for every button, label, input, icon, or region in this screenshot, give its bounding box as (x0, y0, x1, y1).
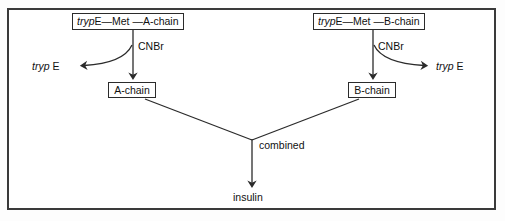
label-tryp-e-right-prefix: tryp (436, 60, 454, 72)
label-tryp-e-right-rest: E (454, 60, 464, 72)
edge-a-chain-to-junction (145, 99, 252, 140)
node-b-chain-label: B-chain (354, 85, 390, 96)
figure-root: tryp E—Met —A-chain tryp E—Met —B-chain … (0, 0, 505, 221)
label-insulin: insulin (233, 192, 263, 203)
node-tryp-e-met-b-chain: tryp E—Met —B-chain (313, 13, 425, 30)
edge-fusion-a-to-tryp-e-left (84, 45, 132, 66)
label-combined: combined (259, 140, 305, 151)
node-a-chain: A-chain (108, 82, 156, 98)
node-tryp-e-met-b-chain-rest: E—Met —B-chain (336, 16, 420, 27)
label-tryp-e-left-rest: E (50, 60, 60, 72)
label-cnbr-right: CNBr (378, 41, 404, 52)
node-tryp-e-met-b-chain-prefix: tryp (318, 16, 336, 27)
edge-b-chain-to-junction (252, 99, 359, 140)
node-tryp-e-met-a-chain-prefix: tryp (77, 16, 95, 27)
node-a-chain-label: A-chain (114, 85, 150, 96)
node-tryp-e-met-a-chain: tryp E—Met —A-chain (72, 13, 184, 30)
diagram-canvas (0, 0, 505, 221)
label-tryp-e-left: tryp E (32, 61, 59, 72)
node-tryp-e-met-a-chain-rest: E—Met —A-chain (95, 16, 179, 27)
label-tryp-e-left-prefix: tryp (32, 60, 50, 72)
node-b-chain: B-chain (348, 82, 396, 98)
label-cnbr-left: CNBr (138, 41, 164, 52)
label-tryp-e-right: tryp E (436, 61, 463, 72)
